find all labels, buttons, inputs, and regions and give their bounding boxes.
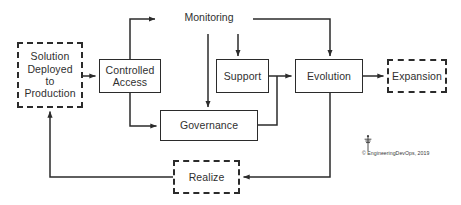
diagram-canvas: Solution Deployed to Production Controll… xyxy=(0,0,461,205)
node-label: Governance xyxy=(180,119,238,131)
node-controlled-access[interactable]: Controlled Access xyxy=(99,59,161,93)
label-monitoring: Monitoring xyxy=(178,11,240,26)
edge-controlled-to-governance xyxy=(130,93,157,126)
edge-realize-to-solution xyxy=(50,112,173,178)
node-label: Evolution xyxy=(307,70,351,82)
node-label: Expansion xyxy=(392,70,442,82)
node-label: Realize xyxy=(189,171,225,183)
node-expansion[interactable]: Expansion xyxy=(387,59,447,93)
node-support[interactable]: Support xyxy=(216,59,269,93)
node-label: Solution Deployed to Production xyxy=(24,50,75,100)
node-label: Controlled Access xyxy=(106,64,155,89)
node-label: Support xyxy=(224,70,261,82)
edge-controlled-to-monitoring xyxy=(130,19,155,59)
edge-monitoring-rail-to-evolution xyxy=(253,19,330,56)
copyright-notice: © EngineeringDevOps, 2019 xyxy=(362,150,458,156)
node-evolution[interactable]: Evolution xyxy=(295,59,363,93)
node-realize[interactable]: Realize xyxy=(173,160,240,194)
node-governance[interactable]: Governance xyxy=(160,110,258,141)
node-solution-deployed-to-production[interactable]: Solution Deployed to Production xyxy=(17,42,83,108)
